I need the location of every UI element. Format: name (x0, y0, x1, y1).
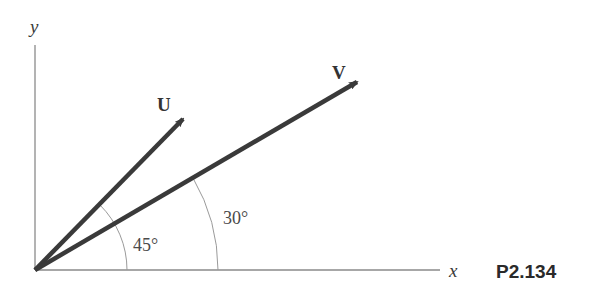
figure-id-label: P2.134 (496, 261, 557, 282)
vector-diagram: y x U V 45° 30° P2.134 (0, 0, 590, 302)
angle-arc-30 (193, 178, 218, 270)
angle-label-45: 45° (133, 235, 158, 255)
vector-v-label: V (332, 62, 346, 83)
angle-label-30: 30° (223, 208, 248, 228)
y-axis-label: y (28, 16, 39, 37)
vector-v-arrow (35, 82, 357, 270)
x-axis-label: x (448, 260, 458, 281)
angle-arc-45 (100, 205, 127, 270)
vector-u-label: U (157, 94, 171, 115)
